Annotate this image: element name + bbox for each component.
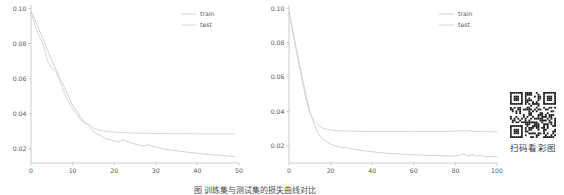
chart-panel-right: 0.020.040.060.080.10 020406080100 traint… — [258, 0, 508, 180]
y-tick-marks-left: 0.020.040.060.080.10 — [13, 5, 31, 152]
x-tick-label: 0 — [29, 167, 33, 174]
y-tick-label: 0.06 — [271, 73, 285, 80]
y-tick-label: 0.04 — [271, 108, 285, 115]
x-tick-label: 100 — [491, 167, 503, 174]
series-line-test — [31, 12, 235, 134]
series-line-test — [289, 12, 497, 132]
axis-frame-left — [31, 5, 239, 163]
x-tick-label: 40 — [368, 167, 376, 174]
axis-lines — [31, 5, 239, 163]
axis-lines — [289, 5, 497, 163]
x-tick-label: 20 — [110, 167, 118, 174]
x-tick-label: 80 — [451, 167, 459, 174]
y-tick-label: 0.08 — [13, 40, 27, 47]
x-tick-label: 40 — [193, 167, 201, 174]
y-tick-label: 0.02 — [271, 142, 285, 149]
legend-label-test: test — [200, 21, 212, 28]
axis-frame-right — [289, 5, 497, 163]
x-tick-label: 20 — [327, 167, 335, 174]
y-tick-label: 0.10 — [271, 5, 285, 12]
series-line-train — [289, 12, 497, 157]
figure-caption: 图 训练集与测试集的损失曲线对比 — [0, 185, 510, 195]
legend-label-train: train — [458, 10, 472, 17]
qr-caption: 扫码看彩图 — [505, 141, 561, 153]
qr-code-block[interactable]: 扫码看彩图 — [505, 92, 561, 153]
legend-left: traintest — [181, 10, 214, 28]
x-tick-label: 30 — [152, 167, 160, 174]
x-tick-label: 0 — [287, 167, 291, 174]
qr-code-icon[interactable] — [510, 92, 556, 138]
x-tick-label: 10 — [69, 167, 77, 174]
chart-panel-left: 0.020.040.060.080.10 01020304050 trainte… — [0, 0, 250, 180]
legend-right: traintest — [439, 10, 472, 28]
x-tick-marks-right: 020406080100 — [287, 163, 503, 174]
chart-svg-right: 0.020.040.060.080.10 020406080100 traint… — [258, 0, 508, 180]
series-line-train — [31, 11, 235, 156]
legend-label-test: test — [458, 21, 470, 28]
y-tick-marks-right: 0.020.040.060.080.10 — [271, 5, 289, 149]
x-tick-label: 50 — [235, 167, 243, 174]
y-tick-label: 0.04 — [13, 110, 27, 117]
y-tick-label: 0.10 — [13, 5, 27, 12]
curve-group-right — [289, 12, 497, 157]
y-tick-label: 0.06 — [13, 75, 27, 82]
chart-svg-left: 0.020.040.060.080.10 01020304050 trainte… — [0, 0, 250, 180]
curve-group-left — [31, 11, 235, 156]
legend-label-train: train — [200, 10, 214, 17]
x-tick-label: 60 — [410, 167, 418, 174]
x-tick-marks-left: 01020304050 — [29, 163, 243, 174]
y-tick-label: 0.08 — [271, 39, 285, 46]
y-tick-label: 0.02 — [13, 145, 27, 152]
figure-container: 0.020.040.060.080.10 01020304050 trainte… — [0, 0, 564, 195]
